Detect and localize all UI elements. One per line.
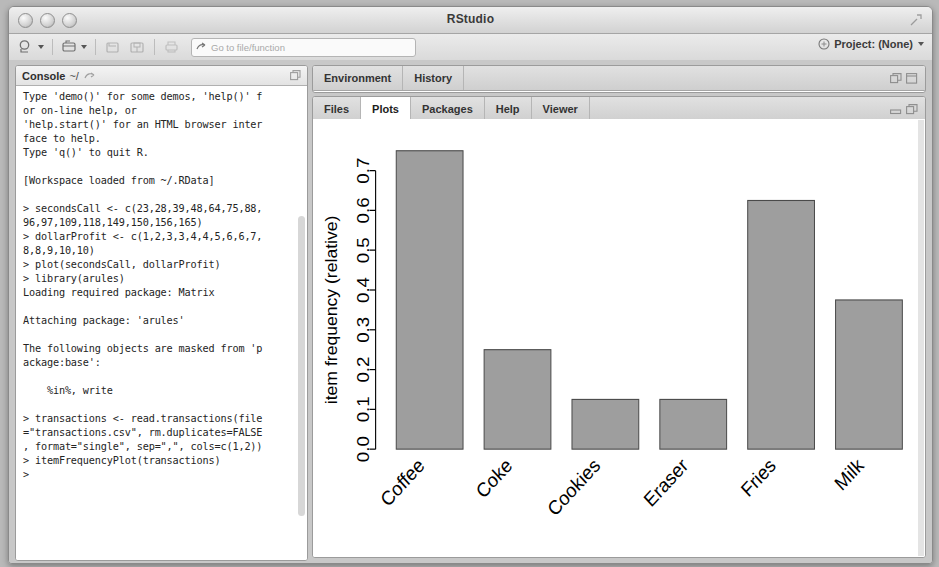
maximize-pane-icon[interactable] [290,70,301,81]
maximize-pane-icon[interactable] [906,73,918,84]
console-shell-icon[interactable] [84,71,95,81]
tab-plots[interactable]: Plots [361,97,411,121]
x-axis-tick-label: Eraser [640,454,692,511]
project-icon [818,38,830,50]
print-icon [163,39,180,55]
goto-file-placeholder: Go to file/function [211,42,285,53]
new-project-button[interactable] [58,37,90,57]
new-file-button[interactable] [15,37,47,57]
tabbar-spacer [590,97,890,121]
goto-arrow-icon [196,42,207,52]
print-button[interactable] [160,37,183,57]
x-axis-tick-label: Coffee [376,454,428,510]
minimize-pane-icon[interactable] [890,73,902,84]
save-button[interactable] [126,37,149,57]
y-axis-tick-label: 0.4 [354,277,373,303]
console-title: Console [22,70,65,82]
y-axis-tick-label: 0.7 [354,158,373,184]
console-header: Console ~/ [16,66,307,86]
bar-milk [836,300,903,449]
rstudio-window: RStudio [8,6,933,564]
environment-tabbar: Environment History [313,66,925,91]
environment-history-panel: Environment History [312,65,926,93]
item-frequency-bar-chart: 0.00.10.20.30.40.50.60.7item frequency (… [313,119,925,557]
tab-history[interactable]: History [403,66,464,90]
x-axis-tick-label: Fries [737,454,780,501]
plot-canvas[interactable]: 0.00.10.20.30.40.50.60.7item frequency (… [313,119,925,557]
save-icon [129,39,146,55]
environment-pane-controls [890,66,925,90]
y-axis-tick-label: 0.5 [354,237,373,263]
window-titlebar: RStudio [9,7,932,34]
workspace: Console ~/ Type 'demo()' for some demos,… [9,60,932,563]
project-label: Project: (None) [834,38,913,50]
console-output[interactable]: Type 'demo()' for some demos, 'help()' f… [16,86,307,560]
x-axis-tick-label: Coke [472,454,516,502]
tab-viewer[interactable]: Viewer [532,97,590,121]
bar-coffee [396,151,463,449]
tab-help[interactable]: Help [485,97,532,121]
plots-panel: Files Plots Packages Help Viewer [312,96,926,558]
bar-eraser [660,399,727,449]
tab-environment[interactable]: Environment [313,66,403,90]
chevron-down-icon [38,45,44,49]
toolbar-separator [95,39,96,55]
toolbar-separator [154,39,155,55]
console-working-directory[interactable]: ~/ [69,70,78,82]
bar-coke [484,350,551,449]
expand-icon[interactable] [910,14,922,26]
y-axis-tick-label: 0.0 [354,436,373,462]
plot-scrollbar[interactable] [918,120,924,556]
open-file-icon [104,39,121,55]
y-axis-tick-label: 0.3 [354,317,373,343]
minimize-pane-icon[interactable] [890,104,902,115]
y-axis-tick-label: 0.1 [354,396,373,422]
y-axis-title: item frequency (relative) [323,216,341,405]
console-text: Type 'demo()' for some demos, 'help()' f… [23,90,301,482]
new-file-icon [18,39,35,55]
new-project-icon [61,39,78,55]
toolbar-separator [52,39,53,55]
y-axis-tick-label: 0.2 [354,357,373,383]
y-axis-tick-label: 0.6 [354,197,373,223]
bar-fries [748,200,815,449]
console-panel: Console ~/ Type 'demo()' for some demos,… [15,65,308,561]
console-scrollbar[interactable] [298,216,305,516]
chevron-down-icon [81,45,87,49]
chevron-down-icon [918,42,924,46]
x-axis-tick-label: Milk [831,454,868,495]
tab-files[interactable]: Files [313,97,361,121]
tabbar-spacer [464,66,890,90]
project-menu[interactable]: Project: (None) [818,38,924,50]
window-title: RStudio [9,12,932,26]
plots-pane-controls [890,97,925,121]
tab-packages[interactable]: Packages [411,97,485,121]
maximize-pane-icon[interactable] [906,104,918,115]
bar-cookies [572,399,639,449]
goto-file-function-input[interactable]: Go to file/function [191,38,416,57]
main-toolbar: Go to file/function Project: (None) [9,34,932,61]
x-axis-tick-label: Cookies [543,454,604,520]
open-file-button[interactable] [101,37,124,57]
